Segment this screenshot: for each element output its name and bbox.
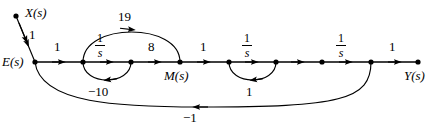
gain-label-loop-19: 19 [118,10,131,23]
gain-n5-n6-denominator: s [336,47,346,59]
gain-n1-n2-denominator: s [95,47,105,59]
gain-label-loop-neg10: −10 [88,85,108,98]
node-n1[interactable] [80,59,85,64]
node-m[interactable] [177,59,182,64]
node-n2[interactable] [128,59,133,64]
gain-label-n6-y: 1 [389,40,396,53]
node-label-x: X(s) [25,6,47,19]
graph-canvas [0,0,434,129]
arrowhead-x-e [19,23,26,40]
gain-label-n3-n4: 1 s [242,32,252,59]
node-group [13,13,420,64]
node-n5[interactable] [319,59,324,64]
gain-label-m-n3: 1 [200,40,207,53]
branch-feedback-neg1 [35,62,371,107]
gain-n3-n4-denominator: s [242,47,252,59]
gain-label-n5-n6: 1 s [336,32,346,59]
node-x[interactable] [13,13,18,18]
node-label-y: Y(s) [404,69,425,82]
node-n4[interactable] [273,59,278,64]
node-label-e: E(s) [2,55,24,68]
gain-label-n1-n2: 1 s [95,32,105,59]
gain-label-n2-m: 8 [148,40,155,53]
node-n6[interactable] [368,59,373,64]
gain-label-loop-one: 1 [246,85,253,98]
signal-flow-graph: X(s) E(s) M(s) Y(s) 1 1 1 s 8 1 1 s 1 s … [0,0,434,129]
branch-loop-neg10 [83,62,131,80]
gain-label-feedback-neg1: −1 [183,111,197,124]
gain-n1-n2-numerator: 1 [95,32,105,44]
gain-label-x-e: 1 [29,28,36,41]
gain-n5-n6-numerator: 1 [336,32,346,44]
gain-n3-n4-numerator: 1 [242,32,252,44]
node-n3[interactable] [226,59,231,64]
arrowhead-loop-neg10 [107,79,117,80]
node-label-m: M(s) [164,69,189,82]
branch-loop-one [229,62,276,80]
node-e[interactable] [32,59,37,64]
node-y[interactable] [415,59,420,64]
arrowhead-loop-19 [120,28,132,29]
arrowhead-loop-one [253,79,263,80]
gain-label-e-n1: 1 [54,40,61,53]
